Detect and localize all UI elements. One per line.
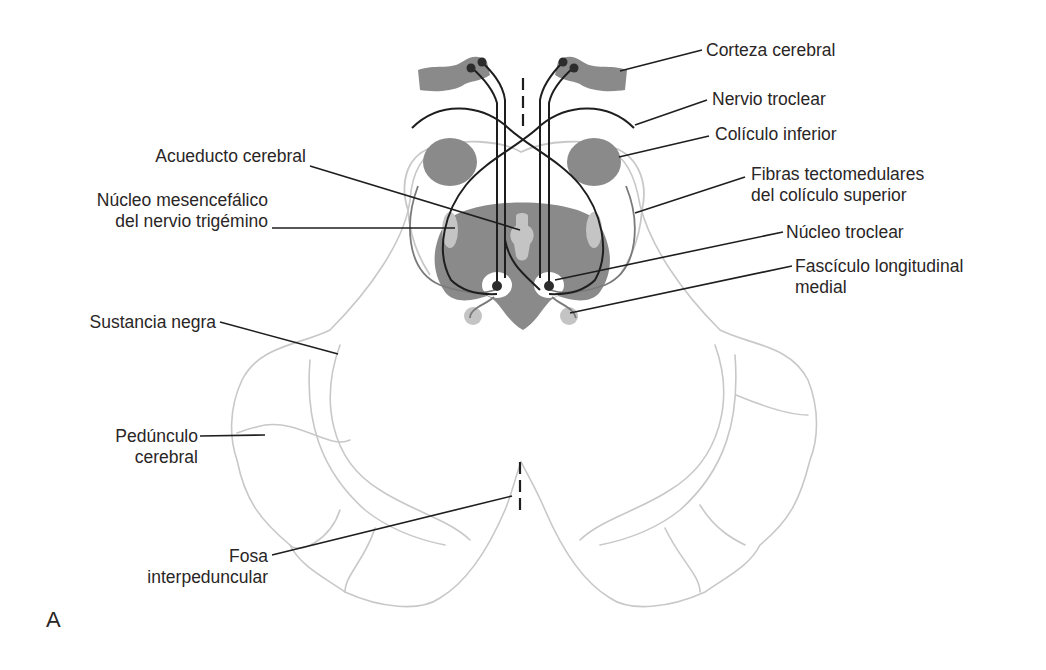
label-mesencefalico-line1: Núcleo mesencefálico — [40, 190, 268, 211]
label-coliculo-inferior: Colículo inferior — [715, 124, 837, 145]
label-corteza-cerebral: Corteza cerebral — [706, 40, 835, 61]
label-fasciculo-line2: medial — [795, 277, 963, 298]
label-fasciculo-longitudinal: Fascículo longitudinal medial — [795, 256, 963, 298]
label-fibras-tectomedulares: Fibras tectomedulares del colículo super… — [751, 164, 924, 206]
label-fasciculo-line1: Fascículo longitudinal — [795, 256, 963, 277]
label-fosa-line1: Fosa — [90, 546, 268, 567]
label-sustancia-negra: Sustancia negra — [20, 312, 216, 333]
label-pedunculo-line2: cerebral — [60, 447, 198, 468]
label-acueducto-cerebral: Acueducto cerebral — [100, 146, 306, 167]
inferior-colliculi — [423, 138, 621, 186]
panel-letter: A — [46, 607, 61, 633]
label-fosa-interpeduncular: Fosa interpeduncular — [90, 546, 268, 588]
label-pedunculo-cerebral: Pedúnculo cerebral — [60, 426, 198, 468]
label-nervio-troclear: Nervio troclear — [712, 89, 826, 110]
label-mesencefalico-line2: del nervio trigémino — [40, 211, 268, 232]
label-nucleo-mesencefalico: Núcleo mesencefálico del nervio trigémin… — [40, 190, 268, 232]
label-nucleo-troclear: Núcleo troclear — [786, 222, 904, 243]
label-fosa-line2: interpeduncular — [90, 567, 268, 588]
label-fibras-line2: del colículo superior — [751, 185, 924, 206]
midbrain-diagram: Corteza cerebral Nervio troclear Colícul… — [0, 0, 1046, 670]
label-fibras-line1: Fibras tectomedulares — [751, 164, 924, 185]
label-pedunculo-line1: Pedúnculo — [60, 426, 198, 447]
